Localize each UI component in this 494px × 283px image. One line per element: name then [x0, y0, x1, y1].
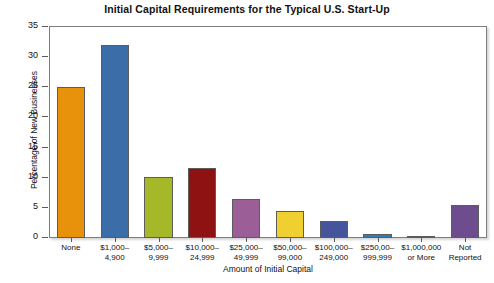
x-axis-tick-mark — [159, 238, 160, 242]
x-axis-tick-mark — [246, 238, 247, 242]
x-axis-tick-mark — [115, 238, 116, 242]
y-axis-tick-label: 25 — [0, 80, 38, 90]
chart-figure: Initial Capital Requirements for the Typ… — [0, 0, 494, 283]
y-axis-tick-label: 30 — [0, 50, 38, 60]
y-axis-tick-mark — [42, 237, 48, 238]
y-axis-tick-mark — [42, 207, 48, 208]
bar — [276, 211, 304, 238]
y-axis-tick-mark — [42, 147, 48, 148]
y-axis-title: Percentage of New Businesses — [29, 40, 39, 220]
x-axis-tick-mark — [465, 238, 466, 242]
y-axis-tick-mark — [42, 177, 48, 178]
chart-title: Initial Capital Requirements for the Typ… — [0, 3, 494, 15]
bar — [101, 45, 129, 238]
y-axis-tick-mark — [42, 116, 48, 117]
y-axis-tick-label: 15 — [0, 141, 38, 151]
y-axis-tick-label: 35 — [0, 20, 38, 30]
bar — [57, 87, 85, 238]
y-axis-tick-label: 0 — [0, 231, 38, 241]
y-axis-tick-mark — [42, 86, 48, 87]
y-axis-tick-label: 10 — [0, 171, 38, 181]
x-axis-tick-mark — [378, 238, 379, 242]
x-axis-tick-mark — [290, 238, 291, 242]
x-axis-title: Amount of Initial Capital — [49, 264, 487, 274]
bar — [232, 199, 260, 238]
x-axis-tick-label: Not Reported — [439, 243, 491, 263]
x-axis-tick-mark — [71, 238, 72, 242]
x-axis-tick-mark — [334, 238, 335, 242]
x-axis-tick-mark — [421, 238, 422, 242]
plot-area — [49, 26, 487, 238]
bar — [144, 177, 172, 238]
y-axis-tick-label: 20 — [0, 110, 38, 120]
y-axis-tick-label: 5 — [0, 201, 38, 211]
bar — [451, 205, 479, 238]
x-axis-tick-mark — [202, 238, 203, 242]
y-axis-tick-mark — [42, 56, 48, 57]
y-axis-tick-mark — [42, 26, 48, 27]
bar — [320, 221, 348, 238]
bar — [188, 168, 216, 238]
